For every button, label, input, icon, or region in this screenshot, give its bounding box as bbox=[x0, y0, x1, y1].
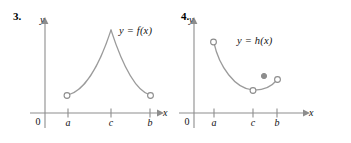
plot-graphic-4 bbox=[175, 0, 350, 143]
x-axis-label: x bbox=[309, 108, 313, 118]
open-circle-at-b bbox=[148, 93, 154, 99]
x-tick-label-c: c bbox=[246, 118, 260, 128]
curve-left-branch bbox=[68, 30, 111, 95]
origin-label: 0 bbox=[182, 117, 192, 127]
curve-label-h: y = h(x) bbox=[237, 36, 273, 47]
figure-panel-4: 4. y x 0 a c b y = h(x) bbox=[175, 0, 350, 143]
x-tick-label-c: c bbox=[104, 118, 118, 128]
open-circle-minimum-at-c bbox=[250, 88, 256, 94]
y-axis-label: y bbox=[189, 15, 193, 25]
x-tick-label-b: b bbox=[143, 118, 157, 128]
y-axis-label: y bbox=[40, 15, 44, 25]
x-tick-label-b: b bbox=[270, 118, 284, 128]
x-axis-label: x bbox=[163, 108, 167, 118]
x-tick-label-a: a bbox=[61, 118, 75, 128]
curve-right-branch bbox=[111, 30, 150, 95]
open-circle-at-a bbox=[211, 39, 217, 45]
exercise-figure-pair: 3. y x 0 a c b y = f(x) 4. bbox=[0, 0, 351, 143]
filled-dot-value-at-c bbox=[261, 73, 266, 78]
open-circle-at-b bbox=[275, 77, 281, 83]
x-tick-label-a: a bbox=[207, 118, 221, 128]
curve-h bbox=[214, 43, 277, 90]
figure-panel-3: 3. y x 0 a c b y = f(x) bbox=[0, 0, 175, 143]
origin-label: 0 bbox=[33, 117, 43, 127]
curve-label-f: y = f(x) bbox=[119, 26, 152, 37]
open-circle-at-a bbox=[64, 93, 70, 99]
